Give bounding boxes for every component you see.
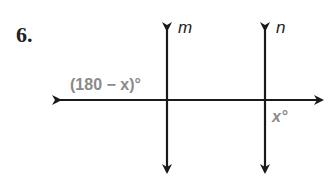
angle-label-left: (180 − x)° — [70, 76, 141, 93]
problem-number: 6. — [16, 22, 33, 47]
line-m-label: m — [178, 18, 192, 37]
angle-label-right: x° — [271, 108, 288, 125]
line-n-label: n — [276, 18, 285, 37]
parallel-lines-diagram: 6. m n (180 − x)° x° — [0, 0, 333, 187]
